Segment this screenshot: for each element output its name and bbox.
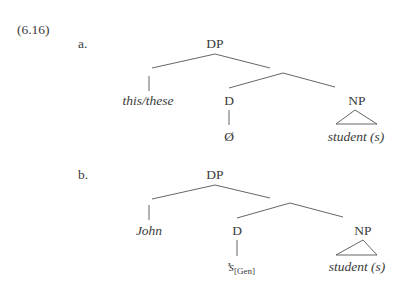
node-specifier: this/these <box>123 94 174 108</box>
node-d: D <box>232 224 242 238</box>
node-d-content: ’s[Gen] <box>226 260 255 276</box>
node-specifier: John <box>136 224 162 238</box>
node-dp: DP <box>206 168 223 182</box>
example-number: (6.16) <box>17 23 50 37</box>
tree-label: a. <box>78 37 87 51</box>
genitive-morpheme: ’s <box>226 259 234 274</box>
node-np-content: student (s) <box>329 260 386 274</box>
node-np: NP <box>354 224 371 238</box>
node-np: NP <box>348 94 365 108</box>
node-d-content: Ø <box>224 130 234 144</box>
genitive-feature: [Gen] <box>234 266 255 276</box>
node-dp: DP <box>206 37 223 51</box>
tree-label: b. <box>78 168 88 182</box>
node-np-content: student (s) <box>328 130 385 144</box>
node-d: D <box>224 94 234 108</box>
